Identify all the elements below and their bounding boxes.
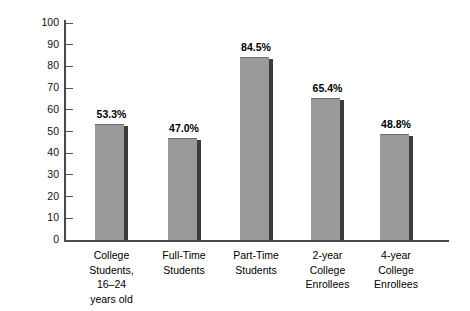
y-axis-tick-label: 90	[29, 39, 59, 50]
bar-value-label: 47.0%	[154, 123, 214, 134]
bar-shadow	[124, 126, 128, 240]
y-axis-tick	[66, 131, 73, 132]
y-axis-tick	[66, 23, 73, 24]
bar-shadow	[269, 59, 273, 240]
bar-value-label: 48.8%	[366, 119, 426, 130]
bar-shadow	[409, 136, 413, 240]
y-axis-tick-label-wrap: 100	[27, 17, 59, 29]
y-axis-tick-label: 20	[29, 191, 59, 202]
y-axis-tick	[66, 88, 73, 89]
y-axis-tick-label: 0	[29, 234, 59, 245]
x-axis-line	[64, 240, 449, 242]
y-axis-tick	[66, 196, 73, 197]
x-axis-category-label: 4-year College Enrollees	[351, 248, 441, 292]
y-axis-tick-label-wrap: 70	[27, 82, 59, 94]
y-axis-tick	[66, 153, 73, 154]
bar	[380, 134, 409, 240]
y-axis-tick-label-wrap: 40	[27, 147, 59, 159]
y-axis-tick	[66, 66, 73, 67]
y-axis-tick-label: 80	[29, 60, 59, 71]
y-axis-tick-label-wrap: 10	[27, 212, 59, 224]
y-axis-tick-label: 10	[29, 212, 59, 223]
bar-shadow	[340, 100, 344, 240]
y-axis-tick-label: 40	[29, 147, 59, 158]
y-axis-tick-label-wrap: 30	[27, 169, 59, 181]
y-axis-tick-label-wrap: 80	[27, 60, 59, 72]
bar	[240, 57, 269, 240]
bar-value-label: 53.3%	[82, 109, 142, 120]
y-axis-tick	[66, 174, 73, 175]
y-axis-tick	[66, 109, 73, 110]
y-axis-tick-label-wrap: 60	[27, 104, 59, 116]
y-axis-tick-label-wrap: 20	[27, 191, 59, 203]
y-axis-tick	[66, 44, 73, 45]
y-axis-tick-label: 100	[29, 17, 59, 28]
y-axis-tick	[66, 240, 73, 241]
y-axis-tick	[66, 218, 73, 219]
y-axis-tick-label-wrap: 50	[27, 126, 59, 138]
bar-value-label: 84.5%	[226, 42, 286, 53]
y-axis-tick-label: 70	[29, 82, 59, 93]
bar	[168, 138, 197, 240]
bar	[95, 124, 124, 240]
y-axis-tick-label: 50	[29, 126, 59, 137]
y-axis-tick-label-wrap: 90	[27, 39, 59, 51]
y-axis-tick-label: 60	[29, 104, 59, 115]
y-axis-tick-label-wrap: 0	[27, 234, 59, 246]
bar-chart: Percent Employed 0102030405060708090100 …	[0, 0, 470, 311]
bar	[311, 98, 340, 240]
y-axis-tick-label: 30	[29, 169, 59, 180]
bar-value-label: 65.4%	[298, 83, 358, 94]
bar-shadow	[197, 140, 201, 240]
